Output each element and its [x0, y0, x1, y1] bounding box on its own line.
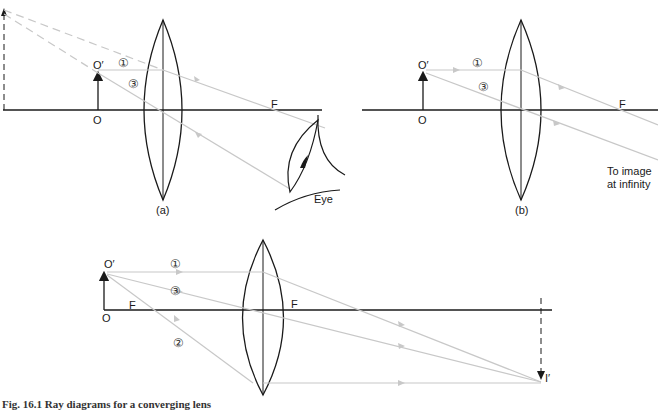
- object-base-label-a: O: [93, 115, 102, 126]
- object-base-label-b: O: [418, 115, 427, 126]
- ray-1-label-a: ①: [118, 57, 129, 69]
- ray-2-label-c: ②: [173, 337, 184, 349]
- ray-1-label-c: ①: [170, 258, 181, 270]
- focal-point-right-label-c: F: [291, 299, 298, 310]
- ray-3-label-a: ③: [128, 78, 139, 90]
- ray-3-label-c: ③: [170, 285, 181, 297]
- eye-lens-icon: [288, 120, 318, 192]
- note-line2-b: at infinity: [607, 179, 650, 190]
- figure-caption: Fig. 16.1 Ray diagrams for a converging …: [2, 398, 211, 410]
- object-top-label-a: O′: [93, 60, 104, 71]
- image-label-c: I′: [545, 373, 550, 384]
- panel-label-b: (b): [515, 205, 528, 216]
- focal-point-label-a: F: [271, 99, 278, 110]
- object-top-label-c: O′: [104, 259, 115, 270]
- note-line1-b: To image: [607, 166, 652, 177]
- focal-point-left-label-c: F: [129, 300, 136, 311]
- object-base-label-c: O: [102, 313, 111, 324]
- object-top-label-b: O′: [418, 60, 429, 71]
- panel-a: [1, 8, 345, 210]
- ray-1-label-b: ①: [472, 57, 483, 69]
- panel-label-a: (a): [156, 205, 169, 216]
- focal-point-label-b: F: [619, 99, 626, 110]
- ray-3-label-b: ③: [478, 81, 489, 93]
- eye-label: Eye: [314, 194, 333, 205]
